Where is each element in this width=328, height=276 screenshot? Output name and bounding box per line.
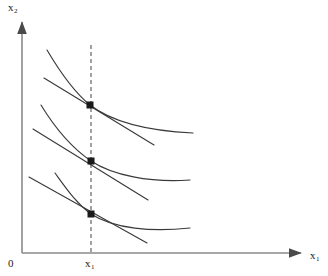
x-tick-label-subscript: 1 bbox=[91, 263, 95, 271]
tangency-point-middle bbox=[88, 158, 95, 165]
budget-line-bottom bbox=[29, 177, 147, 243]
plot-canvas bbox=[0, 0, 328, 276]
tangency-point-top bbox=[87, 102, 94, 109]
x-axis-label-subscript: 1 bbox=[316, 255, 320, 263]
indifference-curve-middle bbox=[41, 105, 190, 181]
axes-group bbox=[22, 22, 301, 253]
x-axis-label-text: x bbox=[310, 249, 316, 261]
curve-pair-top bbox=[44, 50, 193, 145]
x-tick-label: x1 bbox=[85, 258, 94, 269]
x-tick-label-text: x bbox=[85, 257, 91, 269]
y-axis-label: x2 bbox=[8, 2, 17, 13]
figure-root: x2 x1 0 x1 bbox=[0, 0, 328, 276]
curve-pair-bottom bbox=[29, 173, 190, 243]
y-axis-label-text: x bbox=[8, 1, 14, 13]
indifference-curve-bottom bbox=[55, 173, 190, 230]
x-axis-label: x1 bbox=[310, 250, 319, 261]
y-axis-label-subscript: 2 bbox=[14, 7, 18, 15]
origin-label: 0 bbox=[8, 258, 14, 269]
indifference-curve-top bbox=[47, 50, 193, 133]
tangency-point-bottom bbox=[88, 211, 95, 218]
